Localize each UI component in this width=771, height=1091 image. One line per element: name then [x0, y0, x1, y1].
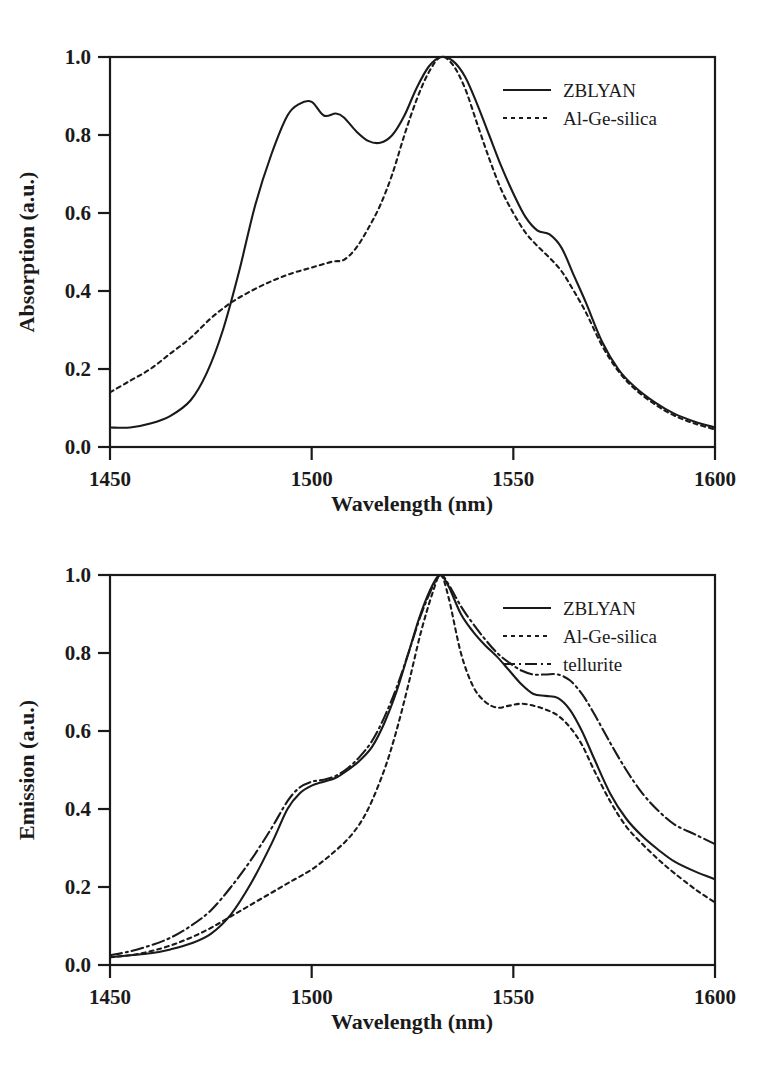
absorption-x-tick-labels: 1450150015501600 [89, 467, 736, 491]
emission-x-axis-title: Wavelength (nm) [331, 1009, 493, 1034]
x-tick-label: 1550 [492, 985, 534, 1009]
emission-x-tick-labels: 1450150015501600 [89, 985, 736, 1009]
emission-x-ticks [110, 965, 715, 978]
legend-label-al-ge-silica: Al-Ge-silica [563, 626, 657, 647]
emission-y-axis-title: Emission (a.u.) [14, 700, 39, 840]
emission-chart-svg: 0.00.20.40.60.81.0 1450150015501600 ZBLY… [0, 540, 771, 1091]
y-tick-label: 0.6 [65, 201, 91, 225]
x-tick-label: 1450 [89, 985, 131, 1009]
y-tick-label: 0.4 [65, 279, 92, 303]
absorption-legend: ZBLYANAl-Ge-silica [503, 80, 657, 129]
y-tick-label: 0.2 [65, 875, 91, 899]
y-tick-label: 0.2 [65, 357, 91, 381]
y-tick-label: 1.0 [65, 563, 91, 587]
figure-container: 0.00.20.40.60.81.0 1450150015501600 ZBLY… [0, 0, 771, 1091]
x-tick-label: 1500 [291, 985, 333, 1009]
absorption-x-ticks [110, 447, 715, 460]
absorption-y-ticks [98, 57, 110, 447]
y-tick-label: 1.0 [65, 45, 91, 69]
legend-label-zblyan: ZBLYAN [563, 80, 636, 101]
absorption-x-axis-title: Wavelength (nm) [331, 491, 493, 516]
emission-legend: ZBLYANAl-Ge-silicatellurite [503, 598, 657, 675]
y-tick-label: 0.0 [65, 953, 91, 977]
x-tick-label: 1450 [89, 467, 131, 491]
emission-chart-panel: 0.00.20.40.60.81.0 1450150015501600 ZBLY… [0, 540, 771, 1091]
x-tick-label: 1600 [694, 467, 736, 491]
absorption-chart-svg: 0.00.20.40.60.81.0 1450150015501600 ZBLY… [0, 0, 771, 540]
emission-y-tick-labels: 0.00.20.40.60.81.0 [65, 563, 92, 977]
legend-label-zblyan: ZBLYAN [563, 598, 636, 619]
x-tick-label: 1550 [492, 467, 534, 491]
absorption-y-tick-labels: 0.00.20.40.60.81.0 [65, 45, 92, 459]
absorption-chart-panel: 0.00.20.40.60.81.0 1450150015501600 ZBLY… [0, 0, 771, 540]
emission-y-ticks [98, 575, 110, 965]
y-tick-label: 0.8 [65, 641, 91, 665]
y-tick-label: 0.0 [65, 435, 91, 459]
y-tick-label: 0.4 [65, 797, 92, 821]
legend-label-tellurite: tellurite [563, 654, 622, 675]
y-tick-label: 0.6 [65, 719, 91, 743]
legend-label-al-ge-silica: Al-Ge-silica [563, 108, 657, 129]
y-tick-label: 0.8 [65, 123, 91, 147]
x-tick-label: 1600 [694, 985, 736, 1009]
absorption-y-axis-title: Absorption (a.u.) [14, 172, 39, 333]
x-tick-label: 1500 [291, 467, 333, 491]
